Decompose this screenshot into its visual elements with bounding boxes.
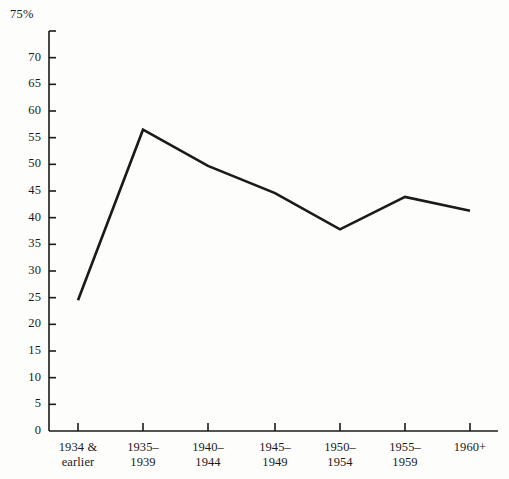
y-axis-tick-label: 30: [7, 263, 41, 278]
y-axis-ticks: [49, 58, 56, 405]
y-axis-tick-label: 65: [7, 76, 41, 91]
y-axis-tick-label: 40: [7, 210, 41, 225]
y-axis-tick-label: 35: [7, 236, 41, 251]
y-axis-tick-label: 60: [7, 103, 41, 118]
y-axis-tick-label: 15: [7, 343, 41, 358]
y-axis-tick-label: 45: [7, 183, 41, 198]
y-axis-tick-label: 0: [7, 423, 41, 438]
x-tick-label-line1: 1960+: [454, 440, 487, 454]
y-axis-tick-label: 50: [7, 156, 41, 171]
x-tick-label-line1: 1940–: [192, 440, 224, 454]
x-axis-tick-label: 1960+: [428, 440, 509, 455]
y-axis-tick-label: 70: [7, 50, 41, 65]
chart-axes: [49, 31, 498, 431]
y-axis-tick-label: 55: [7, 130, 41, 145]
x-tick-label-line1: 1935–: [127, 440, 159, 454]
y-axis-tick-label: 10: [7, 370, 41, 385]
x-tick-label-line1: 1934 &: [59, 440, 97, 454]
line-chart: 75% 7065605550454035302520151050 1934 &e…: [0, 0, 509, 479]
y-axis-tick-label: 25: [7, 290, 41, 305]
y-axis-tick-label: 20: [7, 316, 41, 331]
chart-plot-area: [0, 0, 509, 479]
x-tick-label-line1: 1955–: [389, 440, 421, 454]
x-tick-label-line1: 1945–: [259, 440, 291, 454]
x-tick-label-line1: 1950–: [324, 440, 356, 454]
y-axis-tick-label: 5: [7, 396, 41, 411]
x-tick-label-line2: 1959: [363, 455, 447, 470]
x-axis-ticks: [78, 423, 470, 431]
data-series-line: [78, 130, 470, 301]
